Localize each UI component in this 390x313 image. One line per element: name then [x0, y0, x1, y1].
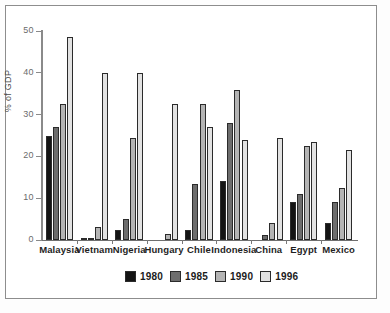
legend-swatch — [215, 271, 226, 282]
bar-group — [251, 31, 286, 240]
bar — [95, 227, 101, 240]
bar — [234, 90, 240, 240]
bar — [53, 127, 59, 240]
bar-group — [42, 31, 77, 240]
bar — [115, 230, 121, 240]
bar — [297, 194, 303, 240]
bar-group — [182, 31, 217, 240]
bar — [269, 223, 275, 240]
bar — [277, 138, 283, 240]
bar — [123, 219, 129, 240]
bar — [81, 238, 87, 240]
bar — [304, 146, 310, 240]
legend-item: 1980 — [125, 271, 163, 282]
legend-swatch — [260, 271, 271, 282]
bar — [311, 142, 317, 240]
bar — [137, 73, 143, 240]
plot-area — [42, 31, 356, 240]
legend-item: 1996 — [260, 271, 298, 282]
bar-group — [286, 31, 321, 240]
bar — [262, 235, 268, 240]
bar-group — [77, 31, 112, 240]
y-axis-title: % of GDP — [3, 36, 13, 146]
legend-swatch — [125, 271, 136, 282]
bar — [227, 123, 233, 240]
bar — [200, 104, 206, 240]
legend-label: 1996 — [275, 271, 298, 282]
bar-group — [147, 31, 182, 240]
chart-figure: % of GDP 01020304050 MalaysiaVietnamNige… — [0, 0, 390, 313]
bar — [102, 73, 108, 240]
bar — [346, 150, 352, 240]
y-tick-label: 20 — [4, 150, 34, 160]
bar-group — [216, 31, 251, 240]
legend-label: 1990 — [230, 271, 253, 282]
bar — [242, 140, 248, 240]
bar — [220, 181, 226, 240]
legend-item: 1985 — [170, 271, 208, 282]
y-tick-label: 0 — [4, 234, 34, 244]
bar — [172, 104, 178, 240]
bar — [192, 184, 198, 240]
bar — [88, 238, 94, 240]
x-category-label: Mexico — [315, 244, 362, 255]
bar — [339, 188, 345, 240]
bar — [46, 136, 52, 241]
bar — [67, 37, 73, 240]
bar — [325, 223, 331, 240]
legend-label: 1980 — [140, 271, 163, 282]
bar — [207, 127, 213, 240]
bar — [332, 202, 338, 240]
bar-group — [321, 31, 356, 240]
y-tick-label: 40 — [4, 67, 34, 77]
bar — [185, 230, 191, 240]
bar — [60, 104, 66, 240]
y-tick-label: 10 — [4, 192, 34, 202]
y-tick-label: 30 — [4, 109, 34, 119]
legend-swatch — [170, 271, 181, 282]
chart-legend: 1980198519901996 — [125, 271, 305, 282]
bar — [130, 138, 136, 240]
bar — [165, 234, 171, 240]
legend-label: 1985 — [185, 271, 208, 282]
legend-item: 1990 — [215, 271, 253, 282]
bar-group — [112, 31, 147, 240]
bar — [290, 202, 296, 240]
y-tick-label: 50 — [4, 25, 34, 35]
